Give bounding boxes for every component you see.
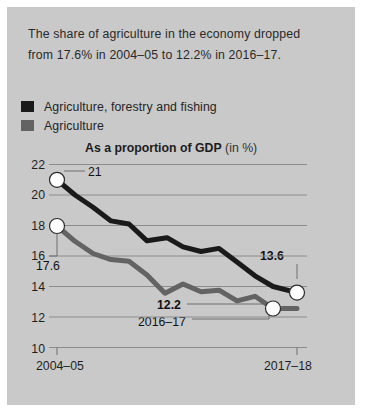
screenshot-root: The share of agriculture in the economy … (0, 0, 375, 412)
series-line-agriculture (57, 226, 297, 309)
gridlines (49, 165, 307, 348)
infographic-card: The share of agriculture in the economy … (7, 7, 355, 405)
marker-black-2004-05 (50, 172, 65, 187)
series-line-agriculture-forestry-fishing (57, 180, 297, 293)
marker-black-2017-18 (290, 285, 305, 300)
chart-plot-area: 22 20 18 16 14 12 10 2004–05 2017–18 21 … (7, 7, 355, 405)
marker-gray-2016-17 (266, 301, 281, 316)
chart-svg (7, 7, 355, 405)
axis-ticks (57, 348, 297, 356)
marker-gray-2004-05 (50, 219, 65, 234)
